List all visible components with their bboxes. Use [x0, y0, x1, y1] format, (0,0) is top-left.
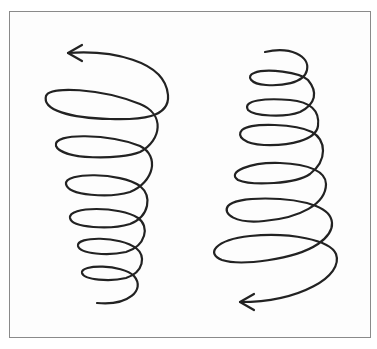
left-spiral-coil	[46, 52, 168, 303]
right-spiral-coil	[214, 50, 337, 302]
spiral-diagram	[0, 0, 377, 349]
left-spiral	[46, 45, 168, 303]
right-spiral	[214, 50, 337, 310]
